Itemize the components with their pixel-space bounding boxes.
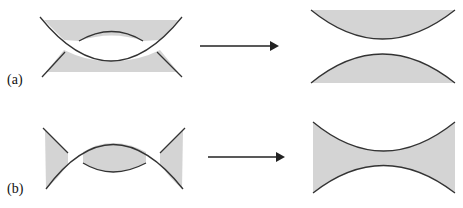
panel-b-after — [313, 122, 455, 193]
panel-a-after — [311, 10, 455, 83]
panel-a-label: (a) — [7, 72, 23, 88]
diagram-canvas — [0, 0, 463, 208]
panel-b-before — [43, 128, 185, 189]
arrow-a-icon — [200, 41, 279, 51]
arrow-b-icon — [208, 152, 285, 162]
panel-a-before — [40, 17, 182, 77]
panel-b-label: (b) — [7, 181, 23, 197]
